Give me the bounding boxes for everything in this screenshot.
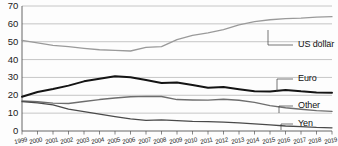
series-label-euro: Euro: [298, 73, 317, 83]
axis-lines: [22, 6, 332, 131]
x-tick-marks: [22, 131, 332, 135]
label-leader-lines: [268, 30, 293, 130]
y-tick-label-0: 0: [0, 125, 18, 136]
series-label-other: Other: [298, 100, 320, 110]
line-chart: 010203040506070 199920002001200220032004…: [0, 0, 338, 146]
chart-canvas: [0, 0, 338, 146]
series-label-us-dollar: US dollar: [298, 39, 334, 49]
y-tick-label-70: 70: [0, 0, 18, 11]
series-lines: [22, 17, 332, 128]
series-line-us-dollar: [22, 17, 332, 51]
y-tick-label-30: 30: [0, 71, 18, 82]
y-tick-label-20: 20: [0, 89, 18, 100]
y-tick-label-10: 10: [0, 107, 18, 118]
y-tick-label-40: 40: [0, 54, 18, 65]
series-label-yen: Yen: [298, 118, 313, 128]
y-tick-label-50: 50: [0, 36, 18, 47]
y-tick-label-60: 60: [0, 18, 18, 29]
gridlines: [22, 6, 332, 113]
series-line-euro: [22, 76, 332, 96]
